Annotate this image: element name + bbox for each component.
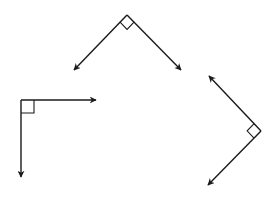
right-angles-diagram — [0, 0, 275, 198]
left-angle — [21, 100, 96, 177]
ray-arrow-2 — [208, 131, 261, 185]
right-angle-marker-icon — [21, 100, 34, 113]
top-angle — [74, 15, 181, 70]
right-angle-marker-icon — [120, 22, 134, 29]
ray-arrow-2 — [127, 15, 181, 70]
angles-layer — [21, 15, 261, 185]
ray-arrow-1 — [209, 76, 261, 131]
right-angle-marker-icon — [247, 124, 254, 138]
ray-arrow-1 — [74, 15, 127, 70]
right-angle — [208, 76, 261, 185]
